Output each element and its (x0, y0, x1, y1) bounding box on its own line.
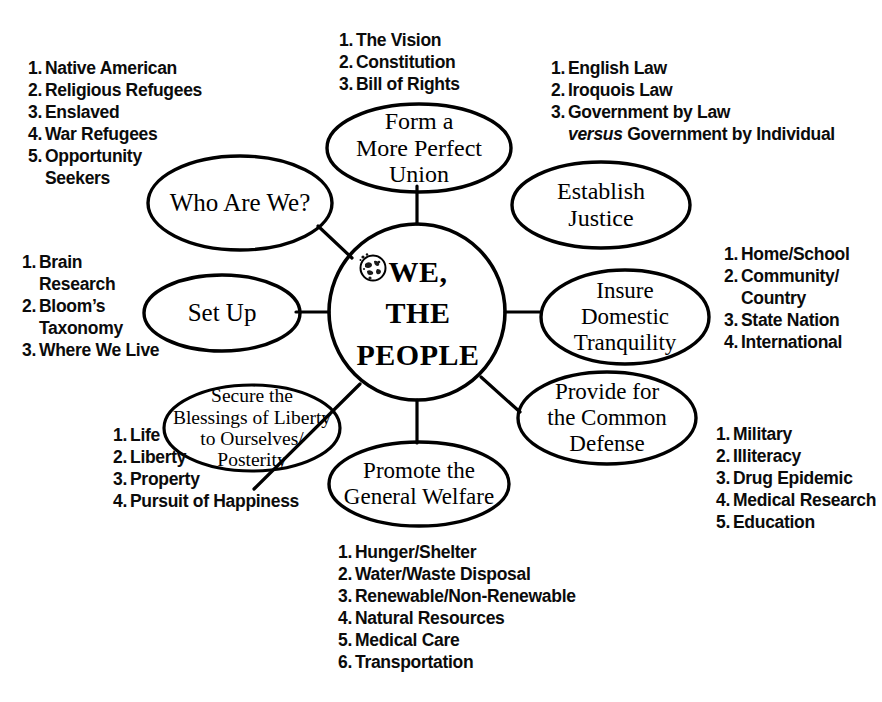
item-number: 2. (339, 51, 356, 73)
list-item: 4.War Refugees (28, 123, 202, 145)
item-text: Religious Refugees (45, 79, 202, 101)
list-item: 2.Water/Waste Disposal (338, 563, 576, 585)
item-number: 6. (338, 651, 355, 673)
node-establish-justice-outline (512, 162, 690, 248)
item-number: 2. (22, 295, 39, 317)
item-text: International (741, 331, 842, 353)
list-item: 1.Brain (22, 251, 159, 273)
list-set-up: 1.Brain Research 2.Bloom’s Taxonomy 3.Wh… (22, 251, 159, 361)
item-text: Home/School (741, 243, 850, 265)
node-we-the-people-outline (329, 224, 505, 400)
item-text: Medical Research (733, 489, 876, 511)
list-item: 2.Constitution (339, 51, 460, 73)
item-number: 5. (28, 145, 45, 167)
list-item: 3.Government by Law (551, 101, 835, 123)
item-text: The Vision (356, 29, 441, 51)
item-number: 3. (716, 467, 733, 489)
list-item: 3.Bill of Rights (339, 73, 460, 95)
list-item: 2.Liberty (113, 446, 299, 468)
item-text: War Refugees (45, 123, 157, 145)
globe-icon (358, 252, 388, 282)
item-number: 4. (724, 331, 741, 353)
item-text: Pursuit of Happiness (130, 490, 299, 512)
list-item: 3.Renewable/Non-Renewable (338, 585, 576, 607)
list-item: 5.Opportunity (28, 145, 202, 167)
item-number: 2. (113, 446, 130, 468)
concept-map-canvas: WE, THE PEOPLE Who Are We? Form a More P… (0, 0, 882, 702)
connector-who-are-we (318, 226, 352, 258)
item-number: 2. (28, 79, 45, 101)
item-text: Hunger/Shelter (355, 541, 476, 563)
item-text: Community/ (741, 265, 839, 287)
item-text: Education (733, 511, 815, 533)
list-establish-justice: 1.English Law 2.Iroquois Law 3.Governmen… (551, 57, 835, 145)
list-item: 3.State Nation (724, 309, 850, 331)
item-number: 1. (22, 251, 39, 273)
list-provide-for-the-common-defense: 1.Military 2.Illiteracy 3.Drug Epidemic … (716, 423, 876, 533)
list-form-a-more-perfect-union: 1.The Vision 2.Constitution 3.Bill of Ri… (339, 29, 460, 95)
list-item: 1.Hunger/Shelter (338, 541, 576, 563)
list-item: 5.Education (716, 511, 876, 533)
item-number: 2. (338, 563, 355, 585)
item-number: 3. (339, 73, 356, 95)
list-item: 5.Medical Care (338, 629, 576, 651)
item-continuation: Taxonomy (22, 317, 159, 339)
item-text: Liberty (130, 446, 186, 468)
list-item: 6.Transportation (338, 651, 576, 673)
item-text: Property (130, 468, 200, 490)
list-item: 4.Medical Research (716, 489, 876, 511)
list-promote-the-general-welfare: 1.Hunger/Shelter 2.Water/Waste Disposal … (338, 541, 576, 673)
list-item: 3.Enslaved (28, 101, 202, 123)
item-continuation: Research (22, 273, 159, 295)
item-text: English Law (568, 57, 667, 79)
list-item: 3.Where We Live (22, 339, 159, 361)
item-text: Drug Epidemic (733, 467, 853, 489)
list-item: 4.International (724, 331, 850, 353)
list-item: 2.Religious Refugees (28, 79, 202, 101)
list-item: 4.Natural Resources (338, 607, 576, 629)
item-number: 4. (716, 489, 733, 511)
list-item: 2.Community/ (724, 265, 850, 287)
list-item: 1.Native American (28, 57, 202, 79)
item-text: Renewable/Non-Renewable (355, 585, 576, 607)
item-number: 3. (724, 309, 741, 331)
item-text: Military (733, 423, 792, 445)
item-number: 4. (113, 490, 130, 512)
item-number: 1. (338, 541, 355, 563)
item-text: Life (130, 424, 160, 446)
list-who-are-we: 1.Native American 2.Religious Refugees 3… (28, 57, 202, 189)
item-text: Government by Law (568, 101, 730, 123)
list-item: 1.Life (113, 424, 299, 446)
list-item: 1.English Law (551, 57, 835, 79)
node-promote-outline (329, 442, 509, 526)
item-text: Opportunity (45, 145, 142, 167)
item-text: Medical Care (355, 629, 459, 651)
item-number: 2. (551, 79, 568, 101)
item-text: Constitution (356, 51, 455, 73)
item-number: 1. (339, 29, 356, 51)
list-item: 2.Iroquois Law (551, 79, 835, 101)
item-number: 5. (716, 511, 733, 533)
item-number: 1. (28, 57, 45, 79)
item-number: 4. (338, 607, 355, 629)
item-text: Illiteracy (733, 445, 801, 467)
versus-emphasis: versus (568, 124, 623, 144)
list-insure-domestic-tranquility: 1.Home/School 2.Community/ Country 3.Sta… (724, 243, 850, 353)
item-continuation: Seekers (28, 167, 202, 189)
node-form-union-outline (327, 104, 511, 192)
item-number: 3. (551, 101, 568, 123)
item-number: 3. (113, 468, 130, 490)
list-item: 3.Property (113, 468, 299, 490)
list-item: 4.Pursuit of Happiness (113, 490, 299, 512)
item-text: Where We Live (39, 339, 159, 361)
item-number: 1. (716, 423, 733, 445)
item-text: Transportation (355, 651, 473, 673)
item-text: Bloom’s (39, 295, 105, 317)
item-number: 2. (716, 445, 733, 467)
item-text: Enslaved (45, 101, 119, 123)
item-number: 3. (22, 339, 39, 361)
item-number: 5. (338, 629, 355, 651)
item-number: 1. (113, 424, 130, 446)
item-text: Bill of Rights (356, 73, 460, 95)
list-secure-blessings-of-liberty: 1.Life 2.Liberty 3.Property 4.Pursuit of… (113, 424, 299, 512)
